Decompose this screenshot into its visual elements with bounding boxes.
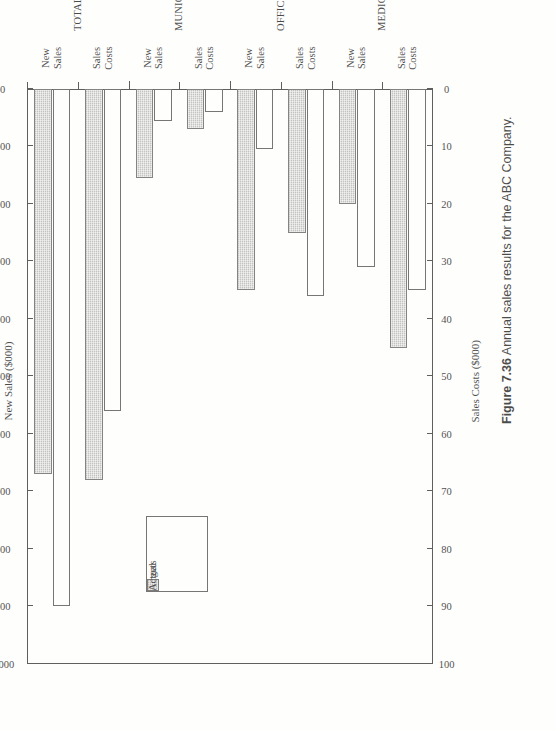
new-sales-tick [27, 663, 33, 664]
new-sales-tick-label: 800 [0, 544, 17, 555]
new-sales-tick-label: 900 [0, 601, 17, 612]
sales-costs-tick-label: 80 [433, 544, 461, 555]
category-label-line: New [142, 48, 153, 68]
category-tick [27, 82, 28, 89]
category-label-sales-costs: SalesCosts [294, 36, 317, 80]
category-label-line: Sales [356, 47, 367, 69]
new-sales-tick [27, 375, 33, 376]
category-tick [281, 82, 282, 89]
category-label-line: Costs [306, 46, 317, 69]
rotated-figure-canvas: 1,0009008007006005004003002001000 100908… [0, 0, 556, 730]
category-label-new-sales: NewSales [142, 36, 165, 80]
sales-costs-tick-label: 50 [433, 371, 461, 382]
category-label-line: Sales [294, 47, 305, 69]
sales-costs-axis-title: Sales Costs ($000) [469, 340, 481, 423]
group-label-totals: TOTALS [72, 0, 83, 31]
bar-targets-new-sales-municipal-buildings [154, 89, 172, 121]
bar-targets-sales-costs-medical-facilities [408, 89, 426, 290]
sales-costs-tick-label: 0 [433, 84, 461, 95]
chart-legend: Targets Actual [146, 516, 208, 592]
new-sales-tick [27, 260, 33, 261]
new-sales-tick [27, 490, 33, 491]
new-sales-tick [27, 433, 33, 434]
new-sales-tick-label: 700 [0, 486, 17, 497]
sales-costs-tick-label: 10 [433, 141, 461, 152]
bar-targets-new-sales-office-buildings [256, 89, 274, 149]
sales-costs-tick-label: 40 [433, 314, 461, 325]
new-sales-tick-label: 600 [0, 429, 17, 440]
bar-actual-sales-costs-office-buildings [288, 89, 306, 233]
category-label-line: Sales [193, 47, 204, 69]
category-label-line: Sales [153, 47, 164, 69]
bar-targets-sales-costs-office-buildings [307, 89, 325, 296]
sales-costs-tick-label: 100 [433, 659, 461, 670]
sales-costs-tick-label: 60 [433, 429, 461, 440]
bar-actual-sales-costs-municipal-buildings [187, 89, 205, 129]
new-sales-tick-label: 400 [0, 314, 17, 325]
bar-actual-sales-costs-totals [85, 89, 103, 480]
group-label-municipal-buildings: MUNICIPAL BUILDINGS [173, 0, 184, 31]
group-label-office-buildings: OFFICE BUILDINGS [275, 0, 286, 31]
figure-number: Figure 7.36 [500, 358, 514, 424]
category-label-line: Sales [396, 47, 407, 69]
category-label-line: New [345, 48, 356, 68]
category-label-line: New [243, 48, 254, 68]
new-sales-tick [27, 605, 33, 606]
category-label-line: Costs [204, 46, 215, 69]
bar-actual-new-sales-medical-facilities [339, 89, 357, 204]
category-tick [78, 82, 79, 89]
sales-costs-tick-label: 70 [433, 486, 461, 497]
new-sales-tick [27, 318, 33, 319]
new-sales-tick-label: 0 [0, 84, 17, 95]
new-sales-axis-line [27, 89, 28, 664]
category-label-sales-costs: SalesCosts [91, 36, 114, 80]
group-label-medical-facilities: MEDICAL FACILITIES [376, 0, 387, 31]
category-label-sales-costs: SalesCosts [396, 36, 419, 80]
figure-caption-text: Annual sales results for the ABC Company… [500, 116, 514, 355]
new-sales-tick [27, 203, 33, 204]
axis-left-closure [27, 663, 433, 664]
category-label-new-sales: NewSales [40, 36, 63, 80]
bar-actual-new-sales-municipal-buildings [136, 89, 154, 178]
category-label-new-sales: NewSales [243, 36, 266, 80]
new-sales-axis-title: New Sales ($000) [2, 342, 14, 421]
sales-costs-tick-label: 30 [433, 256, 461, 267]
sales-costs-tick-label: 90 [433, 601, 461, 612]
category-label-line: Costs [407, 46, 418, 69]
bar-actual-new-sales-totals [34, 89, 52, 474]
bar-targets-new-sales-totals [53, 89, 71, 607]
bar-actual-new-sales-office-buildings [237, 89, 255, 290]
chart-plot-area: 1,0009008007006005004003002001000 100908… [27, 89, 433, 664]
bar-targets-sales-costs-totals [104, 89, 122, 411]
category-label-sales-costs: SalesCosts [193, 36, 216, 80]
new-sales-tick-label: 1,000 [0, 659, 17, 670]
category-label-new-sales: NewSales [345, 36, 368, 80]
category-tick [179, 82, 180, 89]
legend-label-actual: Actual [147, 563, 158, 591]
sales-costs-tick-label: 20 [433, 199, 461, 210]
bar-targets-new-sales-medical-facilities [357, 89, 375, 267]
bar-actual-sales-costs-medical-facilities [390, 89, 408, 348]
new-sales-tick-label: 300 [0, 256, 17, 267]
category-tick [382, 82, 383, 89]
category-label-line: Costs [103, 46, 114, 69]
group-boundary-tick [332, 81, 333, 90]
category-label-line: Sales [91, 47, 102, 69]
category-label-line: New [40, 48, 51, 68]
group-boundary-tick [230, 81, 231, 90]
category-label-line: Sales [255, 47, 266, 69]
new-sales-tick-label: 100 [0, 141, 17, 152]
new-sales-tick-label: 200 [0, 199, 17, 210]
new-sales-tick [27, 145, 33, 146]
group-boundary-tick [129, 81, 130, 90]
figure-caption: Figure 7.36 Annual sales results for the… [500, 94, 514, 424]
category-label-line: Sales [52, 47, 63, 69]
bar-targets-sales-costs-municipal-buildings [205, 89, 223, 112]
new-sales-tick [27, 548, 33, 549]
